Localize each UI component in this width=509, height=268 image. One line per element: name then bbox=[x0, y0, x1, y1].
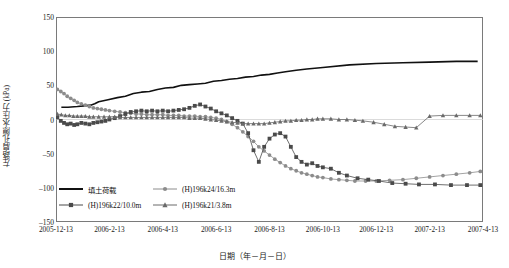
x-axis-tick-label: 2005-12-13 bbox=[39, 225, 73, 234]
chart-legend: 填土荷载 (H)196k24/16.3m (H)196k22/10.0m bbox=[58, 181, 276, 221]
series-2 bbox=[56, 103, 482, 187]
x-axis-tick-label: 2006-2-13 bbox=[94, 225, 124, 234]
y-axis-tick-label: 0 bbox=[20, 115, 54, 124]
series-0 bbox=[61, 61, 477, 107]
legend-swatch-circle bbox=[152, 184, 178, 194]
pore-water-pressure-chart: 左路肩孔隙水压力 (kPa) 150100500–50–100–150 填土荷载… bbox=[0, 0, 509, 268]
legend-item-0[interactable]: 填土荷载 bbox=[58, 184, 142, 195]
x-axis-tick-label: 2006-8-13 bbox=[254, 225, 284, 234]
x-axis-tick-label: 2006-10-13 bbox=[306, 225, 340, 234]
legend-label-3: (H)196k21/3.8m bbox=[182, 201, 231, 210]
x-axis-tick-label: 2006-4-13 bbox=[148, 225, 178, 234]
legend-item-3[interactable]: (H)196k21/3.8m bbox=[152, 200, 231, 210]
y-axis-tick-label: –50 bbox=[20, 149, 54, 158]
y-axis-tick-label: –100 bbox=[20, 183, 54, 192]
y-axis-title: 左路肩孔隙水压力 (kPa) bbox=[2, 56, 16, 196]
x-axis-tick-label: 2006-12-13 bbox=[359, 225, 393, 234]
legend-swatch-triangle bbox=[152, 200, 178, 210]
x-axis-tick-label: 2007-4-13 bbox=[468, 225, 498, 234]
legend-swatch-line bbox=[58, 184, 84, 194]
y-axis-tick-label: 100 bbox=[20, 47, 54, 56]
legend-swatch-square bbox=[58, 200, 84, 210]
legend-label-2: (H)196k22/10.0m bbox=[88, 201, 141, 210]
x-axis-tick-label: 2007-2-13 bbox=[414, 225, 444, 234]
y-axis-tick-label: 150 bbox=[20, 13, 54, 22]
x-axis-tick-label: 2006-6-13 bbox=[201, 225, 231, 234]
legend-label-1: (H)196k24/16.3m bbox=[182, 185, 235, 194]
legend-item-2[interactable]: (H)196k22/10.0m bbox=[58, 200, 142, 210]
legend-row-1: 填土荷载 (H)196k24/16.3m bbox=[58, 181, 276, 197]
y-axis-tick-label: 50 bbox=[20, 81, 54, 90]
legend-item-1[interactable]: (H)196k24/16.3m bbox=[152, 184, 235, 194]
x-axis-title: 日期（年－月－日） bbox=[0, 250, 509, 261]
legend-row-2: (H)196k22/10.0m (H)196k21/3.8m bbox=[58, 197, 276, 213]
legend-label-0: 填土荷载 bbox=[88, 184, 116, 195]
series-1 bbox=[56, 88, 482, 183]
